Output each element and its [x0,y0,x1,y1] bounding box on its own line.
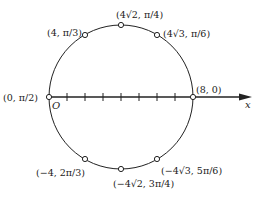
polar-circle-diagram: O x (0, π/2) (8, 0) (4, π/3) (4√2, π/4) … [0,0,263,202]
point-marker-4-pi3 [82,32,87,37]
point-label-4-pi3: (4, π/3) [47,27,82,38]
point-label-origin: (0, π/2) [3,92,38,103]
point-label-8-0: (8, 0) [196,84,222,95]
point-marker-4r2-pi4 [118,22,123,27]
x-axis-label: x [245,99,251,110]
point-marker-m4-2pi3 [82,156,87,161]
point-marker-4r3-pi6 [154,32,159,37]
point-label-4r2-pi4: (4√2, π/4) [116,9,163,20]
point-marker-origin [46,94,51,99]
point-label-m4r3-5pi6: (−4√3, 5π/6) [161,165,222,176]
point-marker-m4r2-3pi4 [118,166,123,171]
point-marker-m4r3-5pi6 [154,156,159,161]
point-marker-8-0 [190,94,195,99]
point-label-4r3-pi6: (4√3, π/6) [163,28,210,39]
point-label-m4r2-3pi4: (−4√2, 3π/4) [113,178,174,189]
point-label-m4-2pi3: (−4, 2π/3) [36,167,85,178]
origin-label: O [52,100,60,111]
